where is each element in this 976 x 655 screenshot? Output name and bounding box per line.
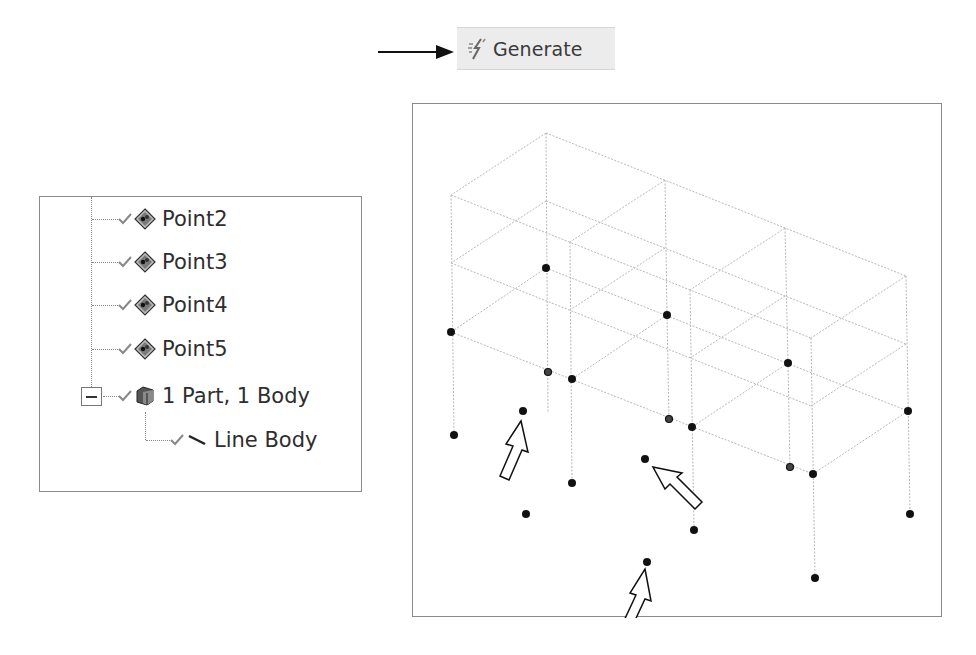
frame-wireframe — [413, 104, 943, 618]
check-icon — [170, 434, 184, 446]
point-feature-icon — [134, 294, 156, 316]
point-feature-icon — [134, 251, 156, 273]
tree-connector — [146, 440, 172, 441]
tree-item-label: Point2 — [162, 207, 228, 231]
part-body-icon — [134, 385, 156, 407]
tree-item-line-body[interactable]: Line Body — [170, 425, 317, 455]
graphics-viewport[interactable] — [412, 103, 942, 617]
tree-item-label: Point4 — [162, 293, 228, 317]
beam-lines — [451, 133, 910, 578]
tree-item-part-body[interactable]: 1 Part, 1 Body — [118, 381, 310, 411]
tree-connector — [92, 305, 120, 306]
annotation-arrows — [500, 421, 702, 618]
tree-item-point4[interactable]: Point4 — [118, 290, 228, 320]
tree-item-point2[interactable]: Point2 — [118, 204, 228, 234]
tree-connector — [92, 349, 120, 350]
generate-label: Generate — [493, 38, 583, 60]
tree-item-label: 1 Part, 1 Body — [162, 384, 310, 408]
check-icon — [118, 343, 132, 355]
generate-button[interactable]: Generate — [457, 27, 615, 70]
generate-lightning-icon — [467, 37, 489, 61]
hollow-arrow-icon — [500, 421, 528, 480]
tree-item-label: Point5 — [162, 337, 228, 361]
tree-item-label: Line Body — [214, 428, 317, 452]
check-icon — [118, 299, 132, 311]
tree-item-label: Point3 — [162, 250, 228, 274]
tree-connector — [92, 262, 120, 263]
check-icon — [118, 256, 132, 268]
collapse-toggle[interactable] — [81, 387, 102, 406]
tree-connector — [92, 219, 120, 220]
tree-connector — [91, 197, 92, 387]
check-icon — [118, 213, 132, 225]
tree-connector — [103, 396, 119, 397]
tree-item-point3[interactable]: Point3 — [118, 247, 228, 277]
point-feature-icon — [134, 338, 156, 360]
hollow-arrow-icon — [653, 467, 702, 509]
right-arrow-icon — [378, 42, 454, 62]
tree-connector — [145, 412, 146, 440]
hollow-arrow-icon — [622, 569, 651, 618]
point-feature-icon — [134, 208, 156, 230]
point-nodes — [447, 264, 914, 582]
tree-item-point5[interactable]: Point5 — [118, 334, 228, 364]
check-icon — [118, 390, 132, 402]
line-body-icon — [186, 429, 208, 451]
